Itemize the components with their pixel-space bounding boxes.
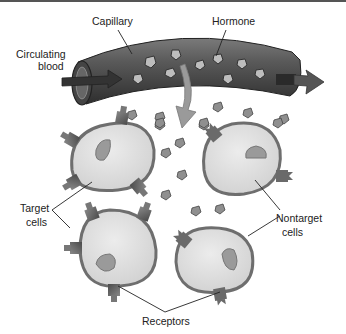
label-capillary: Capillary bbox=[92, 15, 134, 27]
hormone-icon bbox=[213, 102, 223, 112]
label-receptors: Receptors bbox=[142, 315, 190, 327]
hormone-icon bbox=[161, 190, 171, 200]
hormone-icon bbox=[161, 148, 171, 158]
receptor-icon bbox=[136, 201, 153, 222]
receptor-icon bbox=[82, 201, 99, 222]
hormone-icon bbox=[273, 118, 283, 128]
nontarget-cell-upper bbox=[202, 122, 293, 195]
label-nontarget-cells-2: cells bbox=[282, 226, 303, 238]
nontarget-cell-lower bbox=[172, 228, 253, 306]
hormone-target-diagram: Capillary Hormone Circulating blood Targ… bbox=[0, 0, 346, 334]
label-target-cells-1: Target bbox=[20, 202, 49, 214]
target-cell-upper bbox=[59, 105, 154, 199]
receptor-icon bbox=[276, 170, 293, 182]
hormone-icon bbox=[177, 170, 187, 180]
receptor-icon bbox=[64, 242, 82, 254]
receptor-icon bbox=[108, 284, 120, 302]
label-circulating-blood-2: blood bbox=[38, 60, 64, 72]
label-nontarget-cells-1: Nontarget bbox=[276, 212, 322, 224]
label-circulating-blood-1: Circulating bbox=[16, 48, 66, 60]
label-hormone: Hormone bbox=[212, 15, 255, 27]
label-target-cells-2: cells bbox=[26, 216, 47, 228]
hormone-icon bbox=[175, 138, 185, 148]
target-cell-lower bbox=[64, 201, 156, 302]
hormone-icon bbox=[191, 206, 201, 216]
capillary bbox=[62, 38, 324, 105]
hormone-icon bbox=[215, 204, 225, 214]
hormone-icon bbox=[243, 108, 253, 118]
